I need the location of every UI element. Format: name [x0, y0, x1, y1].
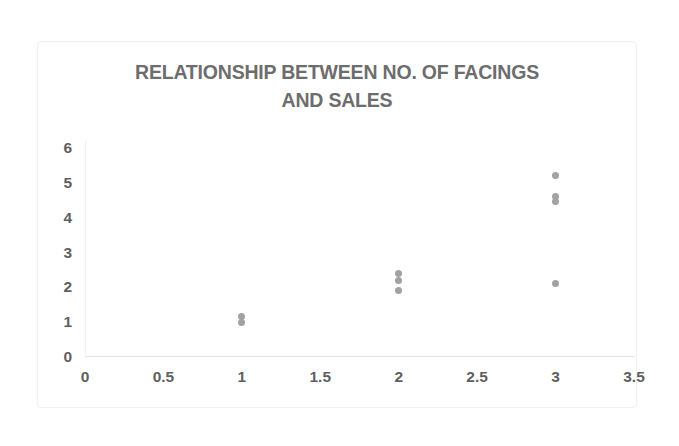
- data-point: [552, 198, 559, 205]
- y-axis-line: [85, 140, 86, 357]
- data-point: [552, 172, 559, 179]
- y-axis-tick-6: 6: [63, 139, 72, 157]
- data-point: [395, 287, 402, 294]
- y-axis-tick-4: 4: [63, 209, 72, 227]
- x-axis-tick-1: 1: [238, 368, 247, 386]
- data-point: [395, 277, 402, 284]
- y-axis-tick-0: 0: [63, 348, 72, 366]
- chart-title: RELATIONSHIP BETWEEN NO. OF FACINGS AND …: [37, 58, 637, 114]
- data-point: [238, 319, 245, 326]
- plot-area: 0123456 00.511.522.533.5: [85, 148, 634, 357]
- y-axis-tick-2: 2: [63, 278, 72, 296]
- y-axis-tick-1: 1: [63, 313, 72, 331]
- data-point: [395, 270, 402, 277]
- x-axis-tick-2: 2: [394, 368, 403, 386]
- x-axis-tick-2-5: 2.5: [466, 368, 488, 386]
- y-axis-tick-3: 3: [63, 244, 72, 262]
- x-axis-tick-0-5: 0.5: [153, 368, 175, 386]
- x-axis-tick-3: 3: [551, 368, 560, 386]
- y-axis-tick-5: 5: [63, 174, 72, 192]
- data-point: [552, 280, 559, 287]
- x-axis-tick-0: 0: [81, 368, 90, 386]
- x-axis-tick-3-5: 3.5: [623, 368, 645, 386]
- x-axis-tick-1-5: 1.5: [310, 368, 332, 386]
- chart-title-line-1: RELATIONSHIP BETWEEN NO. OF FACINGS: [37, 58, 637, 86]
- chart-title-line-2: AND SALES: [37, 86, 637, 114]
- chart-screenshot: RELATIONSHIP BETWEEN NO. OF FACINGS AND …: [0, 0, 679, 446]
- x-axis-line: [85, 356, 634, 357]
